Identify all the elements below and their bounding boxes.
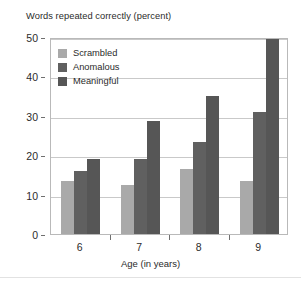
- y-tick-label: 10: [26, 190, 38, 202]
- bar-anomalous-age-6: [74, 171, 87, 234]
- legend-label: Anomalous: [73, 62, 120, 72]
- y-axis: 01020304050: [0, 38, 45, 235]
- legend-swatch-icon: [58, 77, 67, 86]
- legend-label: Scrambled: [73, 48, 117, 58]
- y-tick-label: 0: [32, 229, 38, 241]
- bar-scrambled-age-8: [180, 169, 193, 234]
- legend-swatch-icon: [58, 49, 67, 58]
- y-tick-label: 40: [26, 71, 38, 83]
- bar-scrambled-age-6: [61, 181, 74, 234]
- bar-scrambled-age-9: [240, 181, 253, 234]
- legend-item-scrambled: Scrambled: [58, 46, 120, 60]
- legend-label: Meaningful: [73, 76, 118, 86]
- bar-chart-figure: Words repeated correctly (percent) 01020…: [0, 0, 301, 281]
- x-tick-label: 6: [77, 241, 83, 253]
- y-tick-label: 30: [26, 111, 38, 123]
- bottom-divider: [0, 277, 301, 278]
- y-tick-label: 50: [26, 32, 38, 44]
- bar-scrambled-age-7: [121, 185, 134, 234]
- x-tick-label: 8: [196, 241, 202, 253]
- chart-title: Words repeated correctly (percent): [26, 11, 171, 21]
- y-tick-mark: [41, 196, 45, 197]
- x-axis-title: Age (in years): [0, 258, 301, 269]
- legend-item-anomalous: Anomalous: [58, 60, 120, 74]
- bar-meaningful-age-6: [87, 159, 100, 234]
- legend-swatch-icon: [58, 63, 67, 72]
- bar-anomalous-age-8: [193, 142, 206, 234]
- y-tick-mark: [41, 77, 45, 78]
- legend-item-meaningful: Meaningful: [58, 74, 120, 88]
- bar-anomalous-age-7: [134, 159, 147, 234]
- bar-meaningful-age-7: [147, 121, 160, 234]
- x-tick-label: 9: [255, 241, 261, 253]
- x-tick-mark: [169, 235, 170, 240]
- chart-legend: ScrambledAnomalousMeaningful: [58, 46, 120, 88]
- bar-meaningful-age-8: [206, 96, 219, 234]
- x-tick-label: 7: [136, 241, 142, 253]
- bar-anomalous-age-9: [253, 112, 266, 234]
- y-tick-label: 20: [26, 150, 38, 162]
- y-tick-mark: [41, 235, 45, 236]
- bar-meaningful-age-9: [266, 39, 279, 234]
- y-tick-mark: [41, 156, 45, 157]
- y-tick-mark: [41, 38, 45, 39]
- x-tick-mark: [229, 235, 230, 240]
- x-tick-mark: [110, 235, 111, 240]
- x-axis: 6789: [50, 235, 288, 255]
- y-tick-mark: [41, 117, 45, 118]
